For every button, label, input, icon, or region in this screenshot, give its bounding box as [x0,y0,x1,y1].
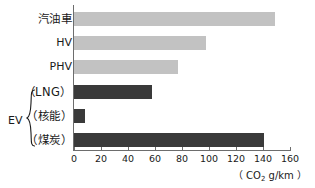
x-tick-0 [74,147,75,151]
category-label-PHV: PHV [50,60,72,74]
unit-suffix: g/km ） [265,170,307,181]
bar-（核能） [74,109,85,123]
bar-（煤炭） [74,133,264,147]
x-tick-label-20: 20 [88,153,114,164]
bar-PHV [74,60,178,74]
x-tick-label-100: 100 [196,153,222,164]
bar-汽油車 [74,12,275,26]
x-tick-140 [263,147,264,151]
x-tick-label-80: 80 [169,153,195,164]
x-tick-40 [128,147,129,151]
category-label-汽油車: 汽油車 [38,12,73,26]
x-tick-label-60: 60 [142,153,168,164]
unit-prefix: （ CO [233,170,261,181]
bar-chart: 汽油車HVPHV（LNG）（核能）（煤炭） EV 020406080100120… [0,0,315,188]
bar-（LNG） [74,85,152,99]
bar-HV [74,36,206,50]
x-tick-label-0: 0 [61,153,87,164]
x-tick-60 [155,147,156,151]
ev-group-label: EV [8,115,22,127]
x-tick-120 [236,147,237,151]
x-tick-label-120: 120 [223,153,249,164]
ev-brace-icon [26,89,35,147]
y-axis-line [73,5,74,151]
x-axis-unit-label: （ CO2 g/km ） [233,170,307,183]
x-tick-label-160: 160 [277,153,303,164]
x-tick-80 [182,147,183,151]
x-tick-160 [290,147,291,151]
x-tick-label-40: 40 [115,153,141,164]
category-label-HV: HV [56,36,72,50]
unit-subscript: 2 [261,175,265,183]
x-tick-100 [209,147,210,151]
x-tick-label-140: 140 [250,153,276,164]
x-tick-20 [101,147,102,151]
